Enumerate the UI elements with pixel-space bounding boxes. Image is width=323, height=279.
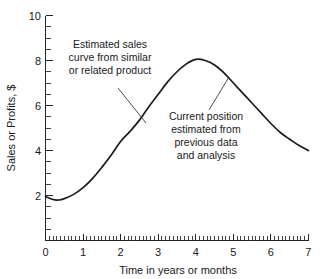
y-axis-title: Sales or Profits, $ <box>5 85 17 172</box>
x-axis-tick-labels: 0 1 2 3 4 5 6 7 <box>42 246 311 258</box>
annotation-estimated-curve: Estimated sales curve from similar or re… <box>69 38 152 76</box>
x-tick-label: 7 <box>305 246 311 258</box>
annotation-current-position: Current position estimated from previous… <box>169 110 243 161</box>
annotation-line: and analysis <box>177 149 235 161</box>
annotation-line: curve from similar <box>69 51 152 63</box>
annotation-line: previous data <box>174 136 237 148</box>
x-axis-ticks <box>46 234 309 241</box>
x-tick-label: 5 <box>230 246 236 258</box>
x-tick-label: 4 <box>193 246 199 258</box>
x-tick-label: 2 <box>118 246 124 258</box>
annotation-line: estimated from <box>171 123 241 135</box>
y-tick-label: 8 <box>35 55 41 67</box>
x-tick-label: 6 <box>268 246 274 258</box>
annotation-line: Estimated sales <box>73 38 147 50</box>
x-axis-title: Time in years or months <box>119 264 237 276</box>
annotation-line: Current position <box>169 110 243 122</box>
y-axis-major-ticks <box>46 16 53 196</box>
x-tick-label: 1 <box>80 246 86 258</box>
annotation-line: or related product <box>69 64 151 76</box>
product-life-cycle-chart: 10 8 6 4 2 0 1 2 3 4 5 6 7 Sales or Prof… <box>0 0 323 279</box>
y-axis-tick-labels: 10 8 6 4 2 <box>29 10 41 202</box>
x-tick-label: 0 <box>42 246 48 258</box>
leader-line-current-position <box>209 77 229 110</box>
y-tick-label: 10 <box>29 10 41 22</box>
y-tick-label: 2 <box>35 190 41 202</box>
y-tick-label: 6 <box>35 100 41 112</box>
leader-line-estimated-curve <box>118 88 146 123</box>
chart-canvas: 10 8 6 4 2 0 1 2 3 4 5 6 7 Sales or Prof… <box>0 0 323 279</box>
x-tick-label: 3 <box>155 246 161 258</box>
y-tick-label: 4 <box>35 145 41 157</box>
